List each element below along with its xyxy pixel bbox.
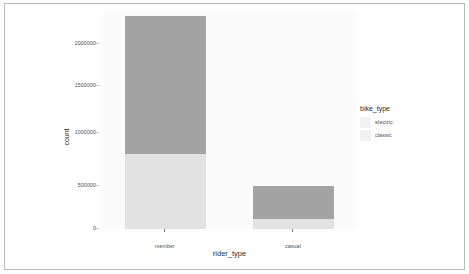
x-tick-mark: [165, 229, 166, 232]
y-tick-label: 1000000: [75, 129, 96, 135]
bar-segment-member-classic[interactable]: [125, 154, 206, 229]
y-tick-label: 500000: [78, 182, 96, 188]
x-tick-mark: [293, 229, 294, 232]
x-axis-title: rider_type: [103, 249, 356, 258]
y-tick-mark: –: [96, 129, 100, 135]
y-tick-1500000: 1500000–: [75, 82, 100, 88]
legend-item-electric[interactable]: electric: [360, 116, 430, 128]
y-tick-0: 0–: [93, 225, 100, 231]
y-tick-500000: 500000–: [78, 182, 100, 188]
y-tick-label: 1500000: [75, 82, 96, 88]
bar-segment-member-electric[interactable]: [125, 16, 206, 154]
bar-segment-casual-electric[interactable]: [253, 186, 334, 219]
y-axis-title: count: [63, 128, 70, 145]
plot-panel: [103, 11, 356, 229]
legend-title: bike_type: [360, 105, 430, 112]
y-tick-1000000: 1000000–: [75, 129, 100, 135]
chart-screenshot: 2000000– 1500000– 1000000– 500000– 0– co…: [0, 0, 469, 274]
y-tick-mark: –: [96, 182, 100, 188]
y-tick-mark: –: [96, 82, 100, 88]
y-tick-label: 2000000: [75, 40, 96, 46]
y-tick-mark: –: [96, 40, 100, 46]
y-tick-2000000: 2000000–: [75, 40, 100, 46]
y-axis: 2000000– 1500000– 1000000– 500000– 0–: [0, 11, 103, 229]
legend-swatch-classic: [360, 130, 371, 141]
legend: bike_type electric classic: [360, 105, 430, 142]
legend-swatch-electric: [360, 117, 371, 128]
legend-label-classic: classic: [375, 132, 392, 138]
bar-segment-casual-classic[interactable]: [253, 219, 334, 229]
legend-label-electric: electric: [375, 119, 393, 125]
x-axis: member casual: [103, 229, 356, 251]
legend-item-classic[interactable]: classic: [360, 129, 430, 141]
y-tick-mark: –: [96, 225, 100, 231]
